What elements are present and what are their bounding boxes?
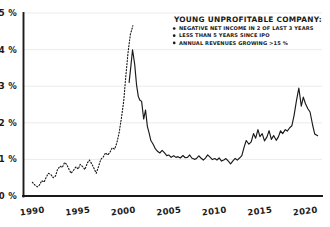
legend-item-label: LESS THAN 5 YEARS SINCE IPO (179, 32, 270, 38)
x-tick-label: 2010 (201, 205, 227, 218)
chart-container: 0 %1 %2 %3 %4 %5 % 199019952000200520102… (0, 0, 330, 227)
legend-bullet-icon (173, 27, 176, 30)
legend-bullet-icon (173, 42, 176, 45)
legend-title: YOUNG UNPROFITABLE COMPANY: (173, 15, 322, 24)
y-tick-label: 2 % (0, 118, 17, 128)
line-chart: 0 %1 %2 %3 %4 %5 % 199019952000200520102… (0, 0, 330, 227)
y-tick-label: 1 % (0, 154, 17, 164)
legend-item-label: ANNUAL REVENUES GROWING >15 % (179, 40, 288, 46)
x-axis-tick-labels: 1990199520002005201020152020 (19, 205, 318, 218)
legend-bullet-icon (173, 34, 176, 37)
y-tick-label: 0 % (0, 191, 17, 201)
y-tick-label: 5 % (0, 8, 17, 18)
x-tick-label: 1990 (19, 205, 45, 218)
y-axis-tick-labels: 0 %1 %2 %3 %4 %5 % (0, 8, 17, 201)
series-line-solid (129, 50, 318, 164)
y-tick-label: 4 % (0, 45, 17, 55)
y-tick-label: 3 % (0, 81, 17, 91)
x-tick-label: 2020 (292, 205, 318, 218)
gridlines (24, 13, 323, 159)
x-tick-label: 2015 (247, 205, 273, 218)
x-tick-label: 2000 (110, 205, 136, 218)
x-tick-label: 1995 (65, 205, 91, 218)
legend-item-label: NEGATIVE NET INCOME IN 2 OF LAST 3 YEARS (179, 25, 314, 31)
chart-legend: YOUNG UNPROFITABLE COMPANY:NEGATIVE NET … (173, 15, 322, 46)
x-tick-label: 2005 (156, 205, 182, 218)
